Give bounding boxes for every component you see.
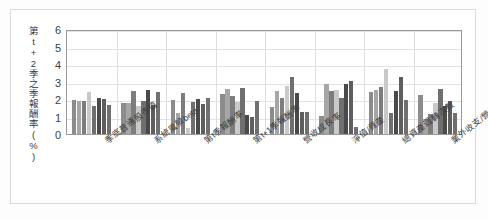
y-tick-label: 4: [55, 61, 61, 70]
y-tick-label: 1: [55, 113, 61, 122]
bar: [77, 101, 81, 134]
bar: [196, 99, 200, 134]
bar: [92, 106, 96, 134]
y-tick-label: 5: [55, 43, 61, 52]
bar: [404, 100, 408, 134]
x-category-label: 第t季報酬率: [201, 136, 208, 145]
bar-group: [67, 31, 117, 134]
bar: [389, 113, 393, 134]
bar: [82, 101, 86, 134]
y-tick-label: 3: [55, 78, 61, 87]
bar: [384, 69, 388, 134]
bar: [344, 84, 348, 134]
x-axis-category-labels: 季底普通股市值系統風險beta第t季報酬率第t+1季報酬率營收成長率淨值/資產總…: [66, 136, 462, 202]
chart-figure: 第t+2季之季報酬率(%) 0123456 季底普通股市值系統風險beta第t季…: [0, 0, 488, 220]
bar-group: [364, 31, 414, 134]
bar: [250, 117, 254, 134]
x-category-label: 淨值/資產: [349, 136, 356, 145]
bar: [156, 92, 160, 134]
y-tick-label: 2: [55, 96, 61, 105]
bar: [399, 77, 403, 134]
bar: [107, 105, 111, 134]
bar: [87, 92, 91, 134]
bar: [72, 100, 76, 134]
bar: [201, 104, 205, 134]
y-tick-label: 6: [55, 26, 61, 35]
x-category-label: 系統風險beta: [151, 136, 158, 145]
y-tick-label: 0: [55, 131, 61, 140]
bar: [102, 99, 106, 134]
bar: [97, 98, 101, 134]
bar: [206, 98, 210, 134]
x-category-label: 第t+1季報酬率: [250, 136, 257, 145]
bar: [255, 101, 259, 134]
bar: [349, 81, 353, 134]
x-category-label: 營收成長率: [300, 136, 307, 145]
bar: [186, 128, 190, 134]
bar: [394, 91, 398, 134]
bar: [300, 112, 304, 134]
y-axis-title: 第t+2季之季報酬率(%): [22, 26, 38, 166]
x-category-label: 季底普通股市值: [102, 136, 109, 145]
bar: [245, 115, 249, 134]
x-category-label: 業外收支/營收: [448, 136, 455, 145]
x-category-label: 總資產週轉次數: [399, 136, 406, 145]
y-axis-tick-labels: 0123456: [47, 26, 61, 134]
